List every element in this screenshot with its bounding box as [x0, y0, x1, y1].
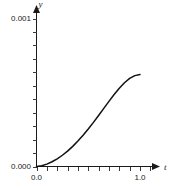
x-tick-label-right: 1.0 [134, 173, 146, 182]
chart-background [0, 0, 172, 188]
y-tick-label-bottom: 0.000 [11, 162, 32, 171]
line-chart: y t 0.001 0.000 0.0 1.0 [0, 0, 172, 188]
y-tick-label-top: 0.001 [11, 14, 32, 23]
x-tick-label-left: 0.0 [31, 173, 43, 182]
chart-container: y t 0.001 0.000 0.0 1.0 [0, 0, 172, 188]
y-axis-title: y [38, 0, 43, 9]
